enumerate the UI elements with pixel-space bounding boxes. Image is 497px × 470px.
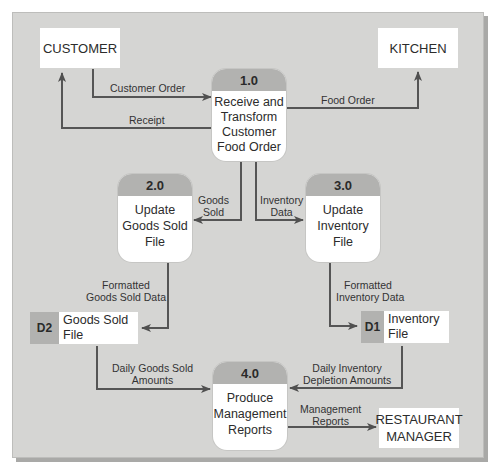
- flow-label-goods-sold: Goods Sold: [198, 194, 229, 218]
- flow-label-line: Daily Inventory: [303, 362, 391, 374]
- data-store-d2-line: File: [63, 328, 83, 343]
- flow-label-customer-order: Customer Order: [110, 82, 185, 94]
- process-1-name: Receive and Transform Customer Food Orde…: [212, 91, 286, 155]
- process-1-line: Transform: [212, 110, 286, 125]
- process-2[interactable]: 2.0 Update Goods Sold File: [118, 174, 192, 262]
- process-3-line: File: [306, 234, 380, 250]
- data-store-d1-line: File: [388, 327, 408, 342]
- process-1-line: Receive and: [212, 95, 286, 110]
- entity-customer-label: CUSTOMER: [43, 40, 117, 57]
- process-1-line: Customer: [212, 125, 286, 140]
- data-store-d1-id: D1: [361, 311, 384, 343]
- process-1[interactable]: 1.0 Receive and Transform Customer Food …: [212, 69, 286, 161]
- flow-label-food-order: Food Order: [321, 94, 375, 106]
- data-store-d2-line: Goods Sold: [63, 313, 128, 328]
- entity-customer[interactable]: CUSTOMER: [40, 28, 120, 68]
- flow-label-line: Goods: [198, 194, 229, 206]
- process-2-name: Update Goods Sold File: [118, 196, 192, 250]
- flow-label-line: Data: [260, 206, 303, 218]
- process-4-line: Management: [213, 406, 287, 422]
- process-2-line: Goods Sold: [118, 218, 192, 234]
- process-4[interactable]: 4.0 Produce Management Reports: [213, 362, 287, 450]
- flow-label-formatted-goods-sold-data: Formatted Goods Sold Data: [86, 279, 166, 303]
- flow-label-line: Depletion Amounts: [303, 374, 391, 386]
- process-3-id: 3.0: [306, 174, 380, 196]
- process-2-line: Update: [118, 202, 192, 218]
- data-store-d2-name: Goods Sold File: [59, 312, 138, 344]
- flow-label-inventory-data: Inventory Data: [260, 194, 303, 218]
- process-2-id: 2.0: [118, 174, 192, 196]
- data-store-d1[interactable]: D1 Inventory File: [361, 311, 449, 343]
- entity-manager-line1: RESTAURANT: [375, 411, 462, 428]
- flow-label-line: Formatted: [86, 279, 166, 291]
- process-4-name: Produce Management Reports: [213, 384, 287, 438]
- flow-label-line: Goods Sold Data: [86, 291, 166, 303]
- entity-restaurant-manager[interactable]: RESTAURANT MANAGER: [379, 408, 459, 448]
- flow-label-receipt: Receipt: [129, 114, 165, 126]
- process-3[interactable]: 3.0 Update Inventory File: [306, 174, 380, 262]
- data-store-d2[interactable]: D2 Goods Sold File: [30, 312, 138, 344]
- entity-manager-line2: MANAGER: [386, 428, 452, 445]
- process-4-line: Reports: [213, 422, 287, 438]
- flow-label-line: Inventory Data: [336, 291, 404, 303]
- flow-label-line: Reports: [300, 415, 361, 427]
- flow-label-line: Daily Goods Sold: [112, 362, 193, 374]
- process-3-line: Update: [306, 202, 380, 218]
- flow-label-line: Management: [300, 403, 361, 415]
- process-3-line: Inventory: [306, 218, 380, 234]
- data-store-d1-line: Inventory: [388, 312, 439, 327]
- flow-label-formatted-inventory-data: Formatted Inventory Data: [336, 279, 404, 303]
- flow-label-line: Formatted: [336, 279, 404, 291]
- data-store-d2-id: D2: [30, 312, 59, 344]
- flow-label-line: Sold: [198, 206, 229, 218]
- process-2-line: File: [118, 234, 192, 250]
- process-1-id: 1.0: [212, 69, 286, 91]
- process-1-line: Food Order: [212, 140, 286, 155]
- process-4-line: Produce: [213, 390, 287, 406]
- flow-label-line: Amounts: [112, 374, 193, 386]
- flow-label-daily-inventory-depletion-amounts: Daily Inventory Depletion Amounts: [303, 362, 391, 386]
- data-store-d1-name: Inventory File: [384, 311, 449, 343]
- flow-label-line: Inventory: [260, 194, 303, 206]
- process-3-name: Update Inventory File: [306, 196, 380, 250]
- process-4-id: 4.0: [213, 362, 287, 384]
- entity-kitchen[interactable]: KITCHEN: [378, 28, 458, 68]
- flow-label-daily-goods-sold-amounts: Daily Goods Sold Amounts: [112, 362, 193, 386]
- flow-label-management-reports: Management Reports: [300, 403, 361, 427]
- entity-kitchen-label: KITCHEN: [389, 40, 446, 57]
